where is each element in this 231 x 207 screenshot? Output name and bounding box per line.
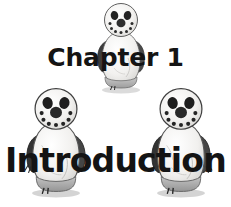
page-title: Introduction [0,143,231,179]
chapter-title-page: Chapter 1 Introduction [0,0,231,207]
chapter-label: Chapter 1 [0,44,231,72]
